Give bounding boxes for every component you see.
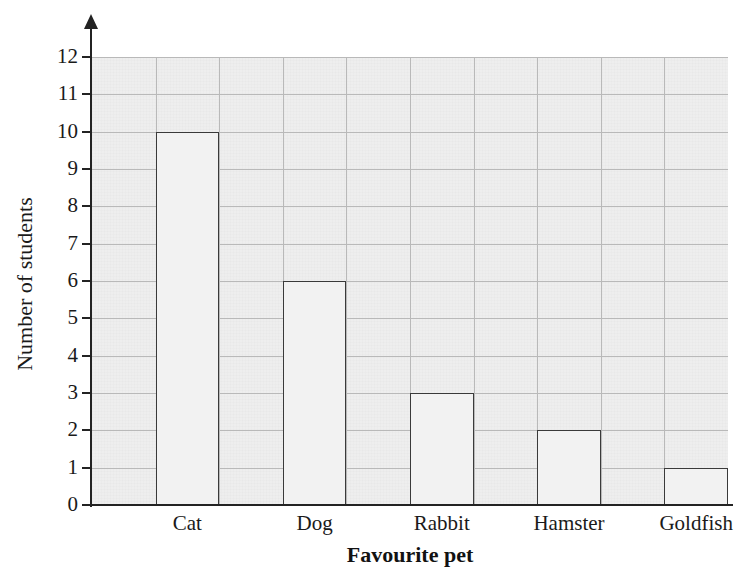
y-tick-mark bbox=[82, 243, 91, 245]
gridline-vertical bbox=[474, 57, 475, 505]
y-tick-mark bbox=[82, 131, 91, 133]
gridline-vertical bbox=[601, 57, 602, 505]
x-tick-label-goldfish: Goldfish bbox=[626, 511, 743, 535]
y-tick-label: 2 bbox=[38, 419, 78, 440]
bar-cat bbox=[156, 132, 220, 505]
gridline-vertical bbox=[219, 57, 220, 505]
y-axis-arrow-icon bbox=[84, 14, 98, 29]
x-tick-label-cat: Cat bbox=[117, 511, 257, 535]
y-tick-label: 9 bbox=[38, 158, 78, 179]
y-tick-mark bbox=[82, 429, 91, 431]
y-tick-mark bbox=[82, 355, 91, 357]
y-tick-mark bbox=[82, 317, 91, 319]
plot-area bbox=[92, 57, 728, 505]
y-tick-label: 11 bbox=[38, 83, 78, 104]
bar-dog bbox=[283, 281, 347, 505]
y-tick-mark bbox=[82, 93, 91, 95]
y-tick-label: 3 bbox=[38, 382, 78, 403]
y-tick-label: 8 bbox=[38, 195, 78, 216]
y-tick-label: 4 bbox=[38, 345, 78, 366]
bar-rabbit bbox=[410, 393, 474, 505]
y-tick-mark bbox=[82, 280, 91, 282]
y-tick-label: 5 bbox=[38, 307, 78, 328]
y-tick-mark bbox=[82, 56, 91, 58]
x-tick-label-dog: Dog bbox=[245, 511, 385, 535]
gridline-vertical bbox=[664, 57, 665, 505]
x-tick-label-hamster: Hamster bbox=[499, 511, 639, 535]
y-tick-label: 12 bbox=[38, 46, 78, 67]
bar-goldfish bbox=[664, 468, 728, 505]
y-tick-label: 6 bbox=[38, 270, 78, 291]
y-tick-label: 7 bbox=[38, 233, 78, 254]
x-axis-line bbox=[90, 504, 733, 506]
bar-hamster bbox=[537, 430, 601, 505]
y-axis-tick-labels: 0123456789101112 bbox=[32, 0, 78, 579]
y-tick-mark bbox=[82, 504, 91, 506]
bar-chart: 0123456789101112 CatDogRabbitHamsterGold… bbox=[0, 0, 743, 579]
y-tick-label: 10 bbox=[38, 121, 78, 142]
y-tick-mark bbox=[82, 467, 91, 469]
x-axis-title: Favourite pet bbox=[92, 542, 728, 568]
y-tick-label: 1 bbox=[38, 457, 78, 478]
y-tick-mark bbox=[82, 205, 91, 207]
y-axis-title: Number of students bbox=[13, 124, 37, 444]
y-tick-mark bbox=[82, 392, 91, 394]
y-tick-label: 0 bbox=[38, 494, 78, 515]
y-tick-mark bbox=[82, 168, 91, 170]
gridline-vertical bbox=[346, 57, 347, 505]
x-tick-label-rabbit: Rabbit bbox=[372, 511, 512, 535]
